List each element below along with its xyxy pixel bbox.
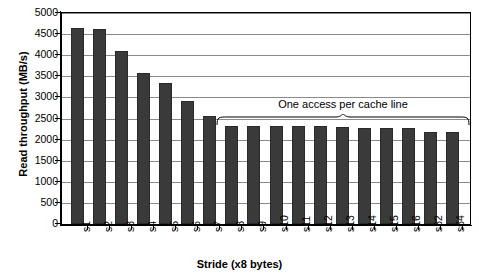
y-axis-tick-mark bbox=[55, 33, 60, 34]
x-axis-tick-label: s64 bbox=[455, 192, 466, 232]
annotation-brace-icon bbox=[215, 112, 471, 124]
x-axis-tick-mark bbox=[374, 226, 375, 230]
x-axis-tick-label: s9 bbox=[257, 192, 268, 232]
x-axis-tick-mark bbox=[352, 226, 353, 230]
x-axis-tick-label: s1 bbox=[81, 192, 92, 232]
y-axis-tick-label: 2000 bbox=[6, 134, 58, 144]
x-axis-tick-label: s32 bbox=[433, 192, 444, 232]
y-axis-tick-label: 1500 bbox=[6, 155, 58, 165]
y-axis-tick-label: 0 bbox=[6, 218, 58, 228]
y-axis-tick-mark bbox=[55, 181, 60, 182]
y-axis-line bbox=[60, 11, 61, 226]
x-axis-tick-label: s11 bbox=[301, 192, 312, 232]
y-axis-tick-mark bbox=[55, 54, 60, 55]
x-axis-tick-mark bbox=[440, 226, 441, 230]
y-axis-tick-mark bbox=[55, 12, 60, 13]
y-axis-tick-mark bbox=[55, 202, 60, 203]
y-axis-tick-mark bbox=[55, 96, 60, 97]
y-axis-tick-label: 500 bbox=[6, 197, 58, 207]
x-axis-tick-mark bbox=[396, 226, 397, 230]
x-axis-tick-mark bbox=[241, 226, 242, 230]
x-axis-tick-mark bbox=[330, 226, 331, 230]
x-axis-tick-label: s4 bbox=[147, 192, 158, 232]
y-axis-tick-mark bbox=[55, 223, 60, 224]
x-axis-tick-mark bbox=[131, 226, 132, 230]
x-axis-tick-label: s5 bbox=[169, 192, 180, 232]
x-axis-tick-mark bbox=[109, 226, 110, 230]
x-axis-tick-mark bbox=[308, 226, 309, 230]
x-axis-tick-mark bbox=[87, 226, 88, 230]
x-axis-tick-mark bbox=[153, 226, 154, 230]
y-axis-tick-label: 3000 bbox=[6, 91, 58, 101]
x-axis-tick-mark bbox=[418, 226, 419, 230]
x-axis-tick-label: s6 bbox=[191, 192, 202, 232]
y-axis-tick-mark bbox=[55, 139, 60, 140]
y-axis-tick-label: 5000 bbox=[6, 7, 58, 17]
x-axis-tick-mark bbox=[175, 226, 176, 230]
y-axis-tick-mark bbox=[55, 118, 60, 119]
y-axis-title: Read throughput (MB/s) bbox=[17, 34, 29, 194]
y-axis-tick-mark bbox=[55, 160, 60, 161]
x-axis-tick-mark bbox=[263, 226, 264, 230]
y-axis-tick-mark bbox=[55, 75, 60, 76]
y-axis-tick-label: 1000 bbox=[6, 176, 58, 186]
annotation-label: One access per cache line bbox=[215, 98, 471, 110]
x-axis-tick-label: s14 bbox=[367, 192, 378, 232]
y-axis-tick-label: 3500 bbox=[6, 70, 58, 80]
y-axis-tick-label: 4500 bbox=[6, 28, 58, 38]
x-axis-tick-label: s3 bbox=[125, 192, 136, 232]
y-axis-tick-labels: 0500100015002000250030003500400045005000 bbox=[0, 0, 58, 275]
x-axis-tick-mark bbox=[197, 226, 198, 230]
x-axis-tick-label: s8 bbox=[235, 192, 246, 232]
x-axis-tick-label: s16 bbox=[411, 192, 422, 232]
x-axis-tick-mark bbox=[219, 226, 220, 230]
x-axis-tick-label: s2 bbox=[103, 192, 114, 232]
x-axis-tick-mark bbox=[462, 226, 463, 230]
x-axis-tick-label: s7 bbox=[213, 192, 224, 232]
x-axis-tick-mark bbox=[286, 226, 287, 230]
x-axis-tick-label: s12 bbox=[323, 192, 334, 232]
x-axis-tick-label: s15 bbox=[389, 192, 400, 232]
x-axis-tick-label: s13 bbox=[345, 192, 356, 232]
y-axis-tick-label: 4000 bbox=[6, 49, 58, 59]
read-throughput-bar-chart: 0500100015002000250030003500400045005000… bbox=[0, 0, 479, 275]
x-axis-title: Stride (x8 bytes) bbox=[0, 258, 479, 270]
y-axis-tick-label: 2500 bbox=[6, 113, 58, 123]
x-axis-tick-label: s10 bbox=[279, 192, 290, 232]
